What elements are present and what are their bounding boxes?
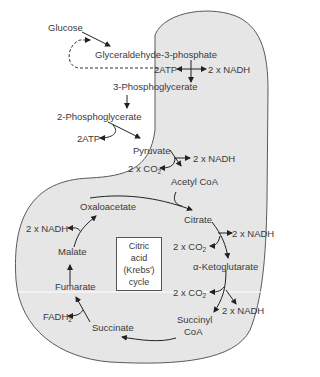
label-succinate: Succinate [92,322,134,333]
label-oxaloacetate: Oxaloacetate [80,201,136,212]
label-co2-citrate: 2 x CO2 [173,241,206,255]
arrow-glucose-g3p [82,32,110,46]
label-nadh-citrate: 2 x NADH [232,228,274,239]
label-atp-out: 2ATP [77,133,100,144]
label-pyruvate: Pyruvate [133,145,171,156]
label-coa: CoA [184,326,202,337]
label-co2-link: 2 x CO2 [128,163,161,177]
label-3-phosphoglycerate: 3-Phosphoglycerate [113,81,198,92]
label-g3p: Glyceraldehyde-3-phosphate [95,49,217,60]
label-succinyl: Succinyl [177,314,212,325]
box-line-1: Citric [117,240,161,252]
label-alpha-ketoglutarate: α-Ketoglutarate [193,261,258,272]
label-malate: Malate [58,246,87,257]
label-citrate: Citrate [184,214,212,225]
label-atp-in: 2ATP [154,64,177,75]
label-nadh-malate: 2 x NADH [26,223,68,234]
citric-acid-cycle-box: Citric acid (Krebs') cycle [116,237,162,291]
label-fadh2: FADH2 [43,311,72,325]
box-line-2: acid [117,252,161,264]
box-line-3: (Krebs') [117,264,161,276]
label-fumarate: Fumarate [55,281,96,292]
label-nadh-link: 2 x NADH [193,153,235,164]
label-nadh-akg: 2 x NADH [222,305,264,316]
label-nadh-glycolysis: 2 x NADH [208,64,250,75]
label-acetyl-coa: Acetyl CoA [171,176,218,187]
label-co2-akg: 2 x CO2 [173,287,206,301]
box-line-4: cycle [117,276,161,288]
label-glucose: Glucose [48,22,83,33]
label-2-phosphoglycerate: 2-Phosphoglycerate [57,111,142,122]
